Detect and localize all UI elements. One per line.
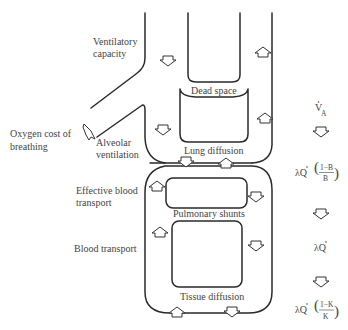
label-oxygen-cost: Oxygen cost of [10,128,72,139]
svg-text:λQ: λQ [295,304,308,315]
arrow-down-icon [160,56,176,66]
svg-text:K: K [323,312,329,321]
svg-text:transport: transport [76,197,112,208]
label-lung-diffusion: Lung diffusion [184,145,244,156]
arrow-down-icon [248,192,264,202]
arrow-down-icon [313,209,329,219]
pulmonary-shunts-box [166,178,247,208]
equation-va: V A [315,101,327,118]
label-ventilatory-capacity: Ventilatory [93,36,137,47]
airway-right-wall [252,13,272,163]
arrow-down-icon [224,307,240,317]
equation-tissue: λQ ( 1−K K ) [295,297,339,321]
arrow-up-icon [255,47,271,57]
svg-text:B: B [323,174,328,183]
arrow-up-icon [169,307,185,317]
svg-text:1−B: 1−B [320,163,333,172]
arrow-up-icon [152,227,168,237]
svg-text:A: A [321,109,327,118]
label-alveolar-ventilation: Alveolar [96,137,132,148]
arrow-down-icon [155,125,171,135]
airway-left-wall [91,13,145,108]
svg-text:breathing: breathing [10,141,48,152]
label-tissue-diffusion: Tissue diffusion [180,291,244,302]
tissue-box [172,221,242,287]
svg-text:1−K: 1−K [320,300,334,309]
svg-text:λQ: λQ [295,167,308,178]
label-pulmonary-shunts: Pulmonary shunts [173,208,245,219]
lung-diffusion-wall [180,89,248,142]
svg-text:(: ( [314,297,319,314]
equation-blood: λQ [314,241,327,253]
svg-text:(: ( [314,159,319,176]
svg-text:ventilation: ventilation [96,149,139,160]
label-effective-blood-transport: Effective blood [76,185,138,196]
arrow-down-icon [313,127,329,137]
dead-space-wall [188,13,240,82]
equation-lung: λQ ( 1−B B ) [295,159,339,183]
svg-text:capacity: capacity [93,48,126,59]
arrow-up-icon [257,113,273,123]
svg-text:λQ: λQ [314,242,327,253]
svg-text:): ) [334,303,339,320]
oxygen-cost-arrow-icon [83,124,95,140]
arrow-up-icon [149,181,165,191]
arrow-down-icon [248,241,264,251]
svg-text:): ) [334,165,339,182]
label-dead-space: Dead space [191,85,237,96]
oxygen-transport-diagram: Ventilatory capacity Oxygen cost of brea… [0,0,348,330]
labels: Ventilatory capacity Oxygen cost of brea… [10,36,245,302]
label-blood-transport: Blood transport [74,243,137,254]
arrow-down-icon [313,277,329,287]
